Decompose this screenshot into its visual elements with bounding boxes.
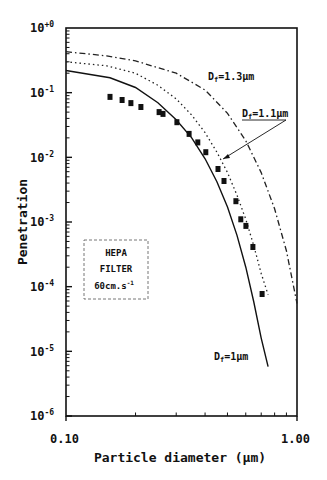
y-tick-1: 10-1 (30, 85, 54, 100)
label-df-1.3um: Df=1.3µm (208, 71, 254, 84)
y-tick-2: 10-2 (30, 150, 54, 165)
data-point-square (243, 223, 248, 229)
data-point-square (195, 139, 200, 145)
leader-line-df-1.1um (223, 120, 286, 159)
data-point-square (128, 100, 133, 106)
penetration-chart: 10+0 10-1 10-2 10-3 10-4 10-5 10-6 0.10 … (0, 0, 327, 480)
y-tick-4: 10-4 (30, 279, 54, 294)
data-point-square (250, 244, 255, 250)
data-point-square (233, 198, 238, 204)
hepa-line-2: FILTER (100, 264, 133, 274)
plot-frame (66, 28, 297, 416)
x-tick-0.10: 0.10 (50, 432, 79, 446)
y-axis-title: Penetration (15, 179, 30, 265)
data-point-square (222, 178, 227, 184)
data-point-square (120, 97, 125, 103)
hepa-filter-box: HEPA FILTER 60cm.s-1 (84, 240, 148, 299)
data-point-square (238, 216, 243, 222)
data-point-square (187, 131, 192, 137)
x-axis-title: Particle diameter (µm) (94, 450, 266, 465)
data-point-square (260, 291, 265, 297)
data-point-square (161, 111, 166, 117)
y-tick-0: 10+0 (30, 20, 54, 35)
data-point-square (203, 149, 208, 155)
y-tick-labels: 10+0 10-1 10-2 10-3 10-4 10-5 10-6 (30, 20, 54, 423)
data-point-square (216, 166, 221, 172)
x-tick-1.00: 1.00 (281, 432, 310, 446)
y-tick-5: 10-5 (30, 344, 54, 359)
data-point-square (138, 104, 143, 110)
curve-df-1um (66, 71, 268, 367)
leader-arrow-icon (223, 154, 230, 159)
y-tick-6: 10-6 (30, 408, 54, 423)
label-df-1um: Df=1µm (214, 351, 248, 364)
data-point-square (108, 94, 113, 100)
hepa-line-1: HEPA (105, 248, 127, 258)
y-axis-ticks (66, 31, 72, 416)
y-tick-3: 10-3 (30, 214, 54, 229)
data-point-square (174, 119, 179, 125)
label-df-1.1um: Df=1.1µm (242, 108, 288, 121)
